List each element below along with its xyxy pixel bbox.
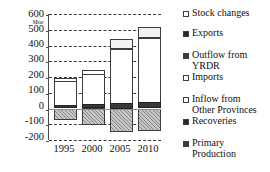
bar-1995-seg-primary-production [54, 109, 77, 121]
bar-group [49, 14, 161, 140]
legend-swatch-imports-icon [183, 75, 189, 81]
bar-2005-seg-outflow-yrdr [110, 39, 133, 49]
legend-item-exports[interactable]: Exports [183, 28, 223, 39]
y-tick-300: 300 [28, 54, 44, 64]
legend-label-exports: Exports [192, 28, 223, 39]
legend-label-imports: Imports [192, 72, 223, 83]
legend-label-inflow-other-provinces: Inflow from Other Provinces [192, 94, 257, 115]
plot-area [48, 14, 160, 140]
legend-item-outflow-yrdr[interactable]: Outflow from YRDR [183, 50, 247, 71]
bar-2005-seg-primary-production [110, 109, 133, 133]
gridline-neg200 [49, 140, 161, 141]
zero-line [49, 109, 161, 110]
y-tick-200: 200 [28, 70, 44, 80]
legend-label-recoveries: Recoveries [192, 116, 236, 127]
bar-2005[interactable] [110, 14, 133, 140]
y-tick-500: 500 [28, 24, 44, 34]
bar-2010[interactable] [138, 14, 161, 140]
legend-item-recoveries[interactable]: Recoveries [183, 116, 236, 127]
y-axis-labels: 600 Mtoe 500 400 300 200 100 0 -100 -200 [0, 0, 46, 140]
y-tick-neg100: -100 [25, 116, 44, 126]
y-tick-400: 400 [28, 39, 44, 49]
bar-2000[interactable] [82, 14, 105, 140]
y-tick-0: 0 [39, 101, 44, 111]
chart-legend: Stock changes Exports Outflow from YRDR … [183, 4, 270, 170]
tick-neg200 [46, 141, 49, 142]
x-axis-labels: 1995 2000 2005 2010 [48, 143, 160, 159]
legend-swatch-inflow-other-provinces-icon [183, 97, 189, 103]
bar-2010-seg-imports [138, 38, 161, 108]
legend-swatch-recoveries-icon [183, 119, 189, 125]
legend-swatch-stock-changes-icon [183, 11, 189, 17]
legend-swatch-outflow-yrdr-icon [183, 53, 189, 59]
plot-wrapper: 600 Mtoe 500 400 300 200 100 0 -100 -200 [0, 0, 170, 172]
legend-item-imports[interactable]: Imports [183, 72, 223, 83]
y-tick-neg200: -200 [25, 132, 44, 142]
y-tick-600: 600 [28, 9, 44, 19]
legend-item-stock-changes[interactable]: Stock changes [183, 8, 250, 19]
legend-item-primary-production[interactable]: Primary Production [183, 138, 236, 159]
x-tick-2010: 2010 [131, 143, 165, 155]
chart-container: 600 Mtoe 500 400 300 200 100 0 -100 -200 [0, 0, 270, 172]
y-tick-100: 100 [28, 85, 44, 95]
legend-item-inflow-other-provinces[interactable]: Inflow from Other Provinces [183, 94, 257, 115]
bar-2000-seg-primary-production [82, 109, 105, 126]
bar-2010-seg-primary-production [138, 109, 161, 131]
legend-label-primary-production: Primary Production [192, 138, 236, 159]
tick-0 [46, 110, 49, 111]
bar-2010-seg-outflow-yrdr [138, 27, 161, 39]
legend-label-outflow-yrdr: Outflow from YRDR [192, 50, 247, 71]
bar-1995[interactable] [54, 14, 77, 140]
bar-2005-seg-imports [110, 49, 133, 109]
legend-swatch-exports-icon [183, 31, 189, 37]
legend-label-stock-changes: Stock changes [192, 8, 250, 19]
legend-swatch-primary-production-icon [183, 141, 189, 147]
